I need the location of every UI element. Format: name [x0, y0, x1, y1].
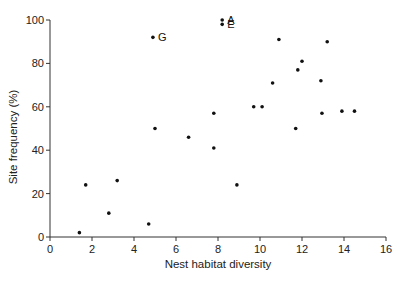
data-point	[320, 112, 324, 116]
data-point	[151, 36, 155, 40]
data-point	[235, 183, 239, 187]
x-tick-label: 4	[131, 243, 137, 255]
data-point	[319, 79, 323, 83]
x-tick-label: 12	[296, 243, 308, 255]
x-axis-title: Nest habitat diversity	[165, 258, 272, 270]
y-tick-label: 100	[26, 14, 44, 26]
x-tick-label: 10	[254, 243, 266, 255]
x-tick-label: 0	[47, 243, 53, 255]
data-point	[300, 59, 304, 63]
point-label: G	[158, 31, 167, 43]
y-tick-label: 0	[38, 231, 44, 243]
data-point	[84, 183, 88, 187]
data-point	[212, 146, 216, 150]
point-label: E	[227, 18, 234, 30]
data-point	[187, 135, 191, 139]
x-tick-label: 8	[215, 243, 221, 255]
data-point	[252, 105, 256, 109]
data-point	[325, 40, 329, 44]
data-points: GAE	[78, 14, 357, 234]
data-point	[294, 127, 298, 131]
x-tick-label: 6	[173, 243, 179, 255]
x-tick-label: 2	[89, 243, 95, 255]
y-tick-label: 80	[32, 57, 44, 69]
data-point	[107, 211, 111, 215]
data-point	[260, 105, 264, 109]
data-point	[78, 231, 82, 235]
data-point	[277, 38, 281, 42]
axes: 0204060801000246810121416	[26, 14, 392, 255]
data-point	[212, 112, 216, 116]
data-point	[220, 18, 224, 22]
data-point	[147, 222, 151, 226]
data-point	[271, 81, 275, 85]
data-point	[353, 109, 357, 113]
x-tick-label: 14	[338, 243, 350, 255]
x-tick-label: 16	[380, 243, 392, 255]
y-tick-label: 60	[32, 101, 44, 113]
data-point	[220, 23, 224, 27]
y-tick-label: 20	[32, 188, 44, 200]
data-point	[153, 127, 157, 131]
data-point	[340, 109, 344, 113]
y-tick-label: 40	[32, 144, 44, 156]
data-point	[296, 68, 300, 72]
scatter-chart: 0204060801000246810121416 GAE Nest habit…	[0, 0, 404, 281]
data-point	[115, 179, 119, 183]
y-axis-title: Site frequency (%)	[7, 90, 19, 185]
